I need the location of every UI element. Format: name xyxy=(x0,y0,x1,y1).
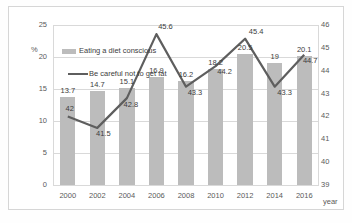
line-label: 43.3 xyxy=(175,89,215,97)
line-label: 44.7 xyxy=(290,57,330,65)
legend-bar-swatch xyxy=(62,49,76,54)
line-label: 44.2 xyxy=(205,68,245,76)
right-tick-label: 45 xyxy=(321,44,343,52)
gridline xyxy=(53,185,319,186)
left-tick-label: 10 xyxy=(25,117,47,125)
line-label: 41.5 xyxy=(83,130,123,138)
right-tick-label: 40 xyxy=(321,158,343,166)
line-label: 45.4 xyxy=(236,28,276,36)
bar-label: 20.5 xyxy=(225,44,265,52)
right-tick-label: 42 xyxy=(321,112,343,120)
right-tick-label: 44 xyxy=(321,67,343,75)
bar-label: 15.1 xyxy=(107,78,147,86)
left-tick-label: 0 xyxy=(25,181,47,189)
right-tick-label: 41 xyxy=(321,135,343,143)
bar-label: 20.1 xyxy=(284,46,324,54)
bar-label: 16.2 xyxy=(166,71,206,79)
left-tick-label: 15 xyxy=(25,85,47,93)
left-tick-label: 20 xyxy=(25,53,47,61)
left-tick-label: 25 xyxy=(25,21,47,29)
line-label: 42 xyxy=(50,105,90,113)
legend-line-swatch xyxy=(68,73,88,75)
right-tick-label: 43 xyxy=(321,90,343,98)
line-label: 45.6 xyxy=(145,23,185,31)
chart-frame: 13.714.715.116.916.218.220.51920.1 4241.… xyxy=(8,6,344,210)
legend-line-label: Be careful not to get fat xyxy=(89,70,167,78)
legend-bar-label: Eating a diet conscious xyxy=(79,47,156,55)
bar-label: 18.2 xyxy=(196,59,236,67)
bar-label: 19 xyxy=(255,53,295,61)
right-tick-label: 46 xyxy=(321,21,343,29)
y-axis-label: % xyxy=(31,45,38,54)
x-axis-label: year xyxy=(323,197,338,206)
right-tick-label: 39 xyxy=(321,181,343,189)
line-label: 42.8 xyxy=(111,101,151,109)
chart-screenshot: 13.714.715.116.916.218.220.51920.1 4241.… xyxy=(0,0,352,223)
line-label: 43.3 xyxy=(265,89,305,97)
x-tick-label: 2016 xyxy=(284,191,324,200)
left-tick-label: 5 xyxy=(25,149,47,157)
